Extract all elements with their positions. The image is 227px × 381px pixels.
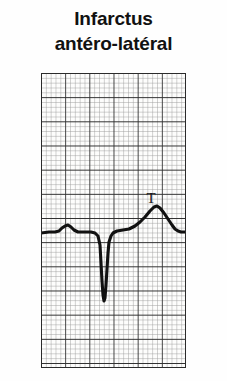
page-title: Infarctus antéro-latéral bbox=[0, 6, 227, 56]
t-wave-marker-label: T bbox=[146, 190, 155, 206]
page-title-line-1: Infarctus bbox=[0, 6, 227, 31]
ecg-figure: Infarctus antéro-latéral T bbox=[0, 0, 227, 381]
ecg-rhythm-strip: T bbox=[41, 73, 186, 368]
t-wave-marker: T bbox=[146, 190, 155, 206]
ecg-annotations: T bbox=[41, 73, 186, 368]
page-title-line-2: antéro-latéral bbox=[0, 31, 227, 56]
